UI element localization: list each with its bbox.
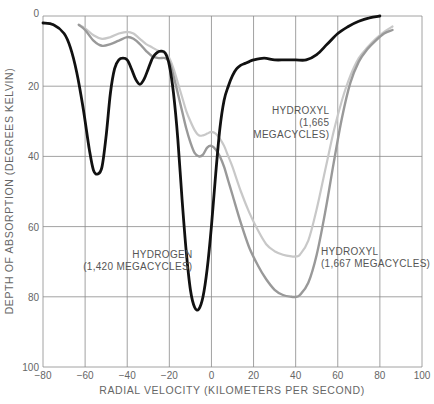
x-tick-label: 0 — [209, 370, 215, 381]
x-tick-label: −40 — [119, 370, 136, 381]
x-tick-label: 100 — [414, 370, 431, 381]
y-tick-label: 60 — [28, 222, 40, 233]
y-tick-label: 20 — [28, 81, 40, 92]
y-tick-label: 40 — [28, 151, 40, 162]
y-axis-ticks: 020406080100 — [22, 8, 39, 373]
x-axis-title: RADIAL VELOCITY (KILOMETERS PER SECOND) — [99, 384, 365, 396]
x-tick-label: −60 — [77, 370, 94, 381]
absorption-chart: 020406080100 −80−60−40−20020406080100 HY… — [0, 0, 434, 404]
y-tick-label: 0 — [33, 8, 39, 19]
x-tick-label: 20 — [248, 370, 260, 381]
x-tick-label: −80 — [35, 370, 52, 381]
hydroxyl-1667-label: HYDROXYL(1,667 MEGACYCLES) — [321, 246, 430, 269]
y-tick-label: 80 — [28, 292, 40, 303]
x-axis-ticks: −80−60−40−20020406080100 — [35, 370, 431, 381]
x-tick-label: 80 — [374, 370, 386, 381]
x-tick-label: 40 — [290, 370, 302, 381]
hydroxyl-1665-label: HYDROXYL(1,665MEGACYCLES) — [253, 105, 329, 140]
hydrogen-label: HYDROGEN(1,420 MEGACYCLES) — [83, 249, 192, 272]
x-tick-label: −20 — [161, 370, 178, 381]
x-tick-label: 60 — [332, 370, 344, 381]
curve-annotations: HYDROXYL(1,665MEGACYCLES)HYDROGEN(1,420 … — [83, 105, 430, 272]
y-axis-title: DEPTH OF ABSORPTION (DEGREES KELVIN) — [3, 68, 15, 315]
